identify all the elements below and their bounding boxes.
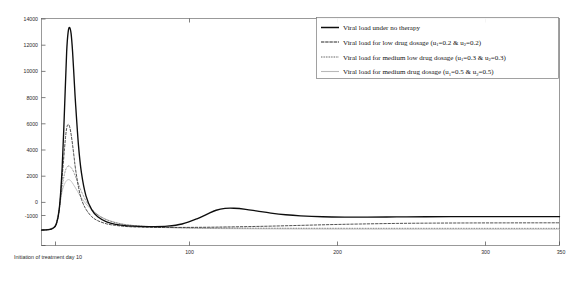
y-tick-label: 4000 — [26, 147, 38, 153]
series-line-medium-dosage — [42, 180, 560, 230]
x-tick-label: 350 — [557, 249, 566, 255]
y-axis-labels: 14000 12000 10000 8000 6000 4000 2000 0 … — [24, 16, 39, 219]
x-tick-label: 200 — [333, 249, 342, 255]
figure-container: 14000 12000 10000 8000 6000 4000 2000 0 … — [0, 0, 588, 283]
legend-label: Viral load for medium low drug dosage (u… — [343, 54, 506, 63]
y-tick-label: 0 — [35, 199, 38, 205]
y-tick-label: 8000 — [26, 95, 38, 101]
legend-item-medium-dosage[interactable]: Viral load for medium drug dosage (u1=0.… — [321, 68, 494, 77]
legend[interactable]: Viral load under no therapy Viral load f… — [317, 18, 559, 79]
x-axis-labels: 100 200 300 350 — [185, 249, 565, 255]
y-tick-label: 2000 — [26, 173, 38, 179]
x-tick-label: 100 — [185, 249, 194, 255]
legend-label: Viral load under no therapy — [343, 24, 420, 32]
series-line-medium-low-dosage — [42, 166, 560, 230]
y-tick-label: 12000 — [24, 42, 39, 48]
y-tick-label: 14000 — [24, 16, 39, 22]
y-tick-label: -1000 — [25, 213, 38, 219]
legend-item-medium-low-dosage[interactable]: Viral load for medium low drug dosage (u… — [321, 54, 506, 63]
viral-load-line-chart: 14000 12000 10000 8000 6000 4000 2000 0 … — [0, 0, 588, 283]
legend-label: Viral load for medium drug dosage (u1=0.… — [343, 68, 494, 77]
x-tick-label: 300 — [481, 249, 490, 255]
series-line-low-dosage — [42, 124, 560, 230]
y-tick-label: 6000 — [26, 121, 38, 127]
treatment-initiation-note: Initiation of treatment day 10 — [14, 254, 82, 260]
legend-label: Viral load for low drug dosage (u1=0.2 &… — [343, 39, 482, 48]
y-tick-label: 10000 — [24, 68, 39, 74]
legend-item-low-dosage[interactable]: Viral load for low drug dosage (u1=0.2 &… — [321, 39, 482, 48]
y-axis-ticks — [42, 19, 46, 246]
